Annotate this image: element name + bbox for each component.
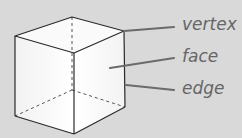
vertex-label: vertex [182, 14, 237, 34]
face-label: face [182, 46, 218, 66]
vertex-leader [124, 27, 174, 31]
edge-leader [126, 85, 174, 90]
edge-label: edge [182, 78, 225, 98]
